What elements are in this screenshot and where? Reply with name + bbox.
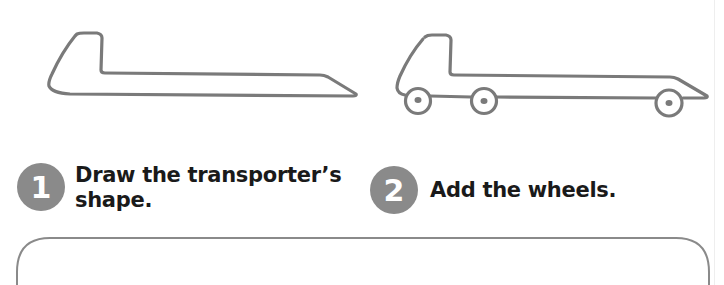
step-drawings (0, 0, 724, 140)
transporter-with-wheels-drawing (397, 35, 707, 98)
step-2-instruction: Add the wheels. (430, 178, 616, 203)
step-2-badge: 2 (370, 166, 418, 214)
transporter-outline-drawing (49, 33, 356, 96)
step-1-instruction: Draw the transporter’s shape. (75, 163, 341, 213)
step-1-text-line2: shape. (75, 188, 341, 213)
step-1-number: 1 (31, 170, 52, 205)
step-2-text: Add the wheels. (430, 178, 616, 203)
step-2-number: 2 (384, 173, 405, 208)
step-1-text-line1: Draw the transporter’s (75, 163, 341, 188)
step-1-badge: 1 (17, 163, 65, 211)
wheels (406, 89, 683, 117)
